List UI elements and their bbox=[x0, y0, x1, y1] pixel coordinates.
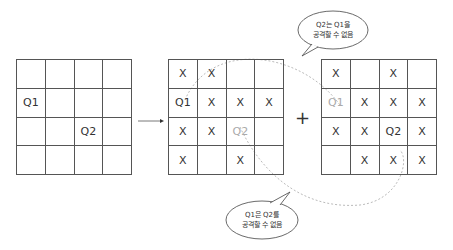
grid-cell: X bbox=[351, 118, 380, 147]
grid-cell bbox=[46, 146, 75, 175]
grid-cell: X bbox=[198, 89, 227, 118]
grid-q1-attack: XXQ1XXXXXQ2XX bbox=[168, 59, 284, 175]
grid-cell: X bbox=[322, 118, 351, 147]
bubble-top-line2: 공격할 수 없음 bbox=[300, 30, 366, 40]
grid-cell bbox=[103, 60, 132, 89]
grid-cell: X bbox=[408, 89, 437, 118]
grid-cell: X bbox=[408, 146, 437, 175]
grid-cell: Q2 bbox=[227, 118, 256, 147]
plus-operator: + bbox=[295, 107, 310, 128]
grid-cell bbox=[351, 60, 380, 89]
grid-q2-attack: XXQ1XXXXXQ2XXXX bbox=[321, 59, 437, 175]
grid-cell bbox=[255, 60, 284, 89]
grid-cell: Q2 bbox=[75, 118, 104, 147]
grid-cell: X bbox=[380, 89, 409, 118]
bubble-top-text: Q2는 Q1을 공격할 수 없음 bbox=[300, 20, 366, 40]
grid-cell bbox=[17, 60, 46, 89]
grid-cell: X bbox=[351, 89, 380, 118]
grid-cell bbox=[408, 60, 437, 89]
grid-cell: X bbox=[408, 118, 437, 147]
grid-cell bbox=[103, 89, 132, 118]
grid-cell: Q1 bbox=[322, 89, 351, 118]
grid-cell: Q2 bbox=[380, 118, 409, 147]
bubble-bottom-line1: Q1은 Q2를 bbox=[228, 210, 296, 220]
grid-cell bbox=[17, 146, 46, 175]
grid-cell: X bbox=[198, 118, 227, 147]
arrow-head-icon bbox=[160, 119, 164, 123]
grid-cell: X bbox=[322, 60, 351, 89]
grid-cell: Q1 bbox=[169, 89, 198, 118]
grid-cell bbox=[46, 89, 75, 118]
grid-cell: X bbox=[380, 146, 409, 175]
grid-cell bbox=[17, 118, 46, 147]
bubble-bottom-line2: 공격할 수 없음 bbox=[228, 220, 296, 230]
grid-cell bbox=[46, 60, 75, 89]
grid-initial: Q1Q2 bbox=[16, 59, 132, 175]
grid-cell: X bbox=[169, 146, 198, 175]
grid-cell: Q1 bbox=[17, 89, 46, 118]
grid-cell bbox=[75, 146, 104, 175]
grid-cell bbox=[103, 118, 132, 147]
grid-cell: X bbox=[198, 60, 227, 89]
grid-cell: X bbox=[255, 89, 284, 118]
grid-cell bbox=[322, 146, 351, 175]
grid-cell: X bbox=[380, 60, 409, 89]
bubble-top-line1: Q2는 Q1을 bbox=[300, 20, 366, 30]
grid-cell bbox=[75, 89, 104, 118]
grid-cell: X bbox=[227, 89, 256, 118]
grid-cell bbox=[227, 60, 256, 89]
bubble-bottom-text: Q1은 Q2를 공격할 수 없음 bbox=[228, 210, 296, 230]
grid-cell bbox=[46, 118, 75, 147]
grid-cell bbox=[255, 118, 284, 147]
grid-cell: X bbox=[227, 146, 256, 175]
grid-cell bbox=[255, 146, 284, 175]
grid-cell bbox=[198, 146, 227, 175]
grid-cell bbox=[103, 146, 132, 175]
grid-cell: X bbox=[169, 60, 198, 89]
grid-cell: X bbox=[351, 146, 380, 175]
grid-cell: X bbox=[169, 118, 198, 147]
grid-cell bbox=[75, 60, 104, 89]
